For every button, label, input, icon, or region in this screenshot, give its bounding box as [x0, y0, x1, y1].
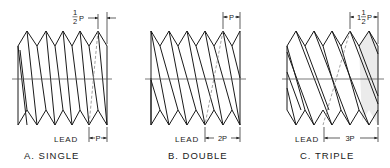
- lead-value: 3P: [345, 134, 354, 143]
- top-dim-suffix: P: [79, 14, 84, 23]
- thread-profile-bottom: [151, 110, 240, 125]
- fraction-den: 2: [361, 17, 365, 26]
- lead-label: LEAD: [295, 135, 319, 144]
- top-dim-suffix: P: [367, 13, 372, 22]
- lead-label: LEAD: [54, 135, 78, 144]
- lead-value: P: [95, 134, 100, 143]
- thread-profile-top: [151, 31, 240, 46]
- panel-single: [12, 12, 116, 142]
- hidden-line: [89, 31, 98, 125]
- panel-triple: [282, 12, 384, 142]
- caption-single: A. SINGLE: [24, 150, 79, 161]
- half-fraction-num: 1: [73, 8, 77, 17]
- half-fraction-den: 2: [73, 17, 77, 26]
- fraction-num: 1: [361, 8, 365, 17]
- top-dim: P: [229, 13, 234, 22]
- lead-value: 2P: [218, 134, 227, 143]
- lead-label: LEAD: [175, 135, 199, 144]
- thread-profile-bottom: [18, 110, 107, 125]
- caption-triple: C. TRIPLE: [300, 150, 354, 161]
- panel-double: [145, 12, 246, 142]
- caption-double: B. DOUBLE: [168, 150, 228, 161]
- thread-profile-top: [18, 31, 107, 46]
- thread-diagram: 1 2 P LEAD P A. SINGLE: [0, 0, 390, 168]
